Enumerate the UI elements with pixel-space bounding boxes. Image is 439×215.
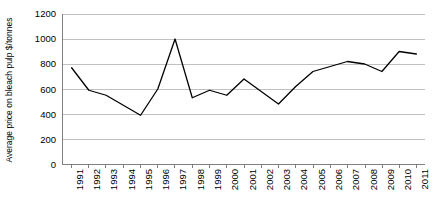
y-axis-tick-label: 1000 [22, 34, 56, 44]
data-series-line [63, 14, 425, 164]
x-axis-tick-label: 1996 [161, 169, 171, 209]
x-axis-tick-mark [295, 165, 296, 168]
x-axis-tick-label: 2006 [334, 169, 344, 209]
x-axis-tick-label: 1993 [109, 169, 119, 209]
x-axis-tick-label: 2003 [282, 169, 292, 209]
x-axis-tick-label: 2007 [351, 169, 361, 209]
x-axis-tick-label: 2009 [386, 169, 396, 209]
x-axis-tick-mark [330, 165, 331, 168]
x-axis-tick-label: 2011 [420, 169, 430, 209]
x-axis-tick-label: 1995 [144, 169, 154, 209]
line-chart: Average price on bleach pulp $/tonnes 12… [0, 0, 439, 215]
y-axis-tick-label: 0 [22, 160, 56, 170]
x-axis-tick-label: 1991 [75, 169, 85, 209]
series-line [72, 39, 417, 115]
x-axis-tick-mark [226, 165, 227, 168]
x-axis-tick-mark [278, 165, 279, 168]
x-axis-tick-label: 2000 [230, 169, 240, 209]
x-axis-tick-mark [71, 165, 72, 168]
x-axis-tick-mark [174, 165, 175, 168]
x-axis-tick-label: 2004 [299, 169, 309, 209]
y-axis-tick-labels: 120010008006004002000 [22, 0, 56, 215]
x-axis-tick-label: 1992 [92, 169, 102, 209]
x-axis-tick-label: 2002 [265, 169, 275, 209]
x-axis-tick-label: 2005 [317, 169, 327, 209]
x-axis-tick-mark [209, 165, 210, 168]
x-axis-tick-mark [192, 165, 193, 168]
y-axis-title: Average price on bleach pulp $/tonnes [2, 5, 16, 175]
x-axis-tick-mark [313, 165, 314, 168]
x-axis-tick-label: 1997 [178, 169, 188, 209]
y-axis-tick-label: 1200 [22, 9, 56, 19]
x-axis-tick-label: 1998 [196, 169, 206, 209]
x-axis-tick-mark [140, 165, 141, 168]
x-axis-tick-mark [244, 165, 245, 168]
y-axis-tick-label: 200 [22, 135, 56, 145]
x-axis-tick-mark [105, 165, 106, 168]
x-axis-tick-mark [347, 165, 348, 168]
y-axis-tick-label: 600 [22, 85, 56, 95]
x-axis-tick-mark [88, 165, 89, 168]
x-axis-tick-label: 1999 [213, 169, 223, 209]
x-axis-tick-mark [416, 165, 417, 168]
x-axis-tick-label: 2008 [369, 169, 379, 209]
y-axis-tick-label: 800 [22, 60, 56, 70]
plot-area [62, 14, 425, 165]
x-axis-tick-mark [123, 165, 124, 168]
x-axis-tick-mark [399, 165, 400, 168]
x-axis-tick-mark [382, 165, 383, 168]
y-axis-tick-label: 400 [22, 110, 56, 120]
x-axis-tick-mark [365, 165, 366, 168]
x-axis-tick-labels: 1991199219931994199519961997199819992000… [62, 165, 425, 215]
x-axis-tick-mark [157, 165, 158, 168]
x-axis-tick-label: 1994 [127, 169, 137, 209]
x-axis-tick-label: 2001 [248, 169, 258, 209]
x-axis-tick-mark [261, 165, 262, 168]
x-axis-tick-label: 2010 [403, 169, 413, 209]
